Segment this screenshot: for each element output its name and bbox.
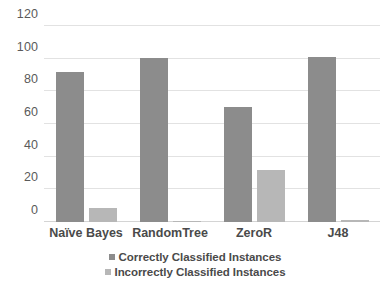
bar-chart: 020406080100120 Naïve BayesRandomTreeZer… <box>0 0 390 293</box>
chart-legend: Correctly Classified InstancesIncorrectl… <box>0 249 390 279</box>
legend-swatch-icon <box>109 254 115 260</box>
bar <box>173 221 201 222</box>
y-axis-tick-label: 120 <box>0 8 38 20</box>
bar <box>308 57 336 222</box>
bar <box>341 220 369 222</box>
x-axis: Naïve BayesRandomTreeZeroRJ48 <box>44 226 380 244</box>
bar <box>140 58 168 222</box>
bar <box>257 170 285 222</box>
legend-item: Incorrectly Classified Instances <box>0 264 390 279</box>
bars-layer <box>44 26 380 222</box>
legend-label: Incorrectly Classified Instances <box>115 265 286 280</box>
y-axis-tick-label: 60 <box>0 106 38 118</box>
bar <box>89 208 117 222</box>
y-axis-tick-label: 40 <box>0 139 38 151</box>
y-axis-tick-label: 100 <box>0 41 38 53</box>
x-axis-category-label: RandomTree <box>128 226 212 241</box>
y-axis-tick-label: 80 <box>0 73 38 85</box>
bar <box>56 72 84 222</box>
y-axis: 020406080100120 <box>0 26 38 222</box>
y-axis-tick-label: 0 <box>0 204 38 216</box>
legend-swatch-icon <box>105 269 111 275</box>
x-axis-category-label: ZeroR <box>212 226 296 241</box>
x-axis-category-label: Naïve Bayes <box>44 226 128 241</box>
legend-item: Correctly Classified Instances <box>0 249 390 264</box>
y-axis-tick-label: 20 <box>0 171 38 183</box>
x-axis-category-label: J48 <box>296 226 380 241</box>
bar <box>224 107 252 222</box>
